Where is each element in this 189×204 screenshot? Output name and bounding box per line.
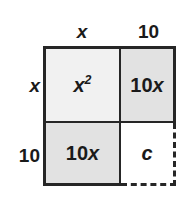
cell-c-label: c: [141, 143, 152, 163]
top-edge-label-x: x: [43, 22, 121, 41]
cell-ten-x-top-right-coefficient: 10: [130, 74, 152, 96]
cell-ten-x-top-right: 10x: [121, 46, 176, 123]
area-model-figure: x 10 x 10 x2 10x 10x c: [0, 0, 189, 204]
cell-ten-x-bottom-left: 10x: [43, 123, 121, 186]
left-edge-label-x: x: [2, 76, 40, 95]
cell-x-squared-label: x2: [73, 75, 91, 95]
cell-ten-x-bottom-left-coefficient: 10: [66, 142, 88, 164]
cell-ten-x-bottom-left-variable: x: [88, 142, 99, 164]
area-model-grid: x2 10x 10x c: [43, 46, 176, 186]
cell-x-squared-exponent: 2: [85, 73, 92, 87]
cell-ten-x-bottom-left-label: 10x: [66, 143, 99, 163]
cell-x-squared-base: x: [73, 74, 84, 96]
cell-ten-x-top-right-variable: x: [153, 74, 164, 96]
top-edge-label-10: 10: [121, 22, 176, 41]
left-edge-label-10: 10: [2, 146, 40, 165]
cell-x-squared: x2: [43, 46, 121, 123]
cell-c-unknown: c: [121, 123, 176, 186]
cell-ten-x-top-right-label: 10x: [130, 75, 163, 95]
